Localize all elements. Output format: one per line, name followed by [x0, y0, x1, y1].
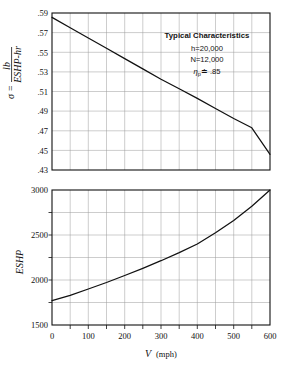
- lower-xtick-labels: 0 100 200 300 400 500 600: [50, 331, 277, 341]
- upper-ytick: .55: [37, 48, 48, 58]
- dual-chart-svg: .59 .57 .55 .53 .51 .49 .47 .45 .43 σ = …: [0, 0, 284, 370]
- velocity-symbol: V: [145, 348, 153, 359]
- upper-ytick: .53: [37, 67, 48, 77]
- figure-container: .59 .57 .55 .53 .51 .49 .47 .45 .43 σ = …: [0, 0, 284, 370]
- lower-ytick: 3000: [31, 185, 48, 195]
- upper-ytick: .57: [37, 28, 48, 38]
- lower-xtick: 300: [155, 331, 168, 341]
- annotation-altitude: h=20,000: [191, 44, 223, 53]
- upper-ytick: .49: [37, 106, 48, 116]
- velocity-unit: (mph): [156, 349, 177, 359]
- lower-xtick: 400: [191, 331, 204, 341]
- lower-xaxis-title: V (mph): [145, 348, 177, 359]
- upper-ytick: .45: [37, 146, 48, 156]
- lower-xtick: 0: [50, 331, 54, 341]
- upper-ytick: .59: [37, 8, 48, 18]
- lower-ytick: 2500: [31, 230, 48, 240]
- upper-yaxis-title: σ = lb ESHP-hr: [1, 46, 24, 99]
- lower-ytick-labels: 3000 2500 2000 1500: [31, 185, 48, 330]
- upper-ytick-labels: .59 .57 .55 .53 .51 .49 .47 .45 .43: [37, 8, 48, 175]
- annotation-block: Typical Characteristics h=20,000 N=12,00…: [165, 31, 250, 77]
- upper-chart: .59 .57 .55 .53 .51 .49 .47 .45 .43 σ = …: [1, 8, 270, 175]
- upper-ytick: .43: [37, 165, 48, 175]
- lower-xtick: 200: [118, 331, 131, 341]
- lower-xaxis-ticks: [70, 325, 252, 329]
- annotation-efficiency: ηp≐ .85: [193, 67, 220, 77]
- lower-xtick: 100: [82, 331, 95, 341]
- lower-ytick: 1500: [31, 320, 48, 330]
- upper-ytick: .47: [37, 126, 48, 136]
- lower-chart: 3000 2500 2000 1500 ESHP: [14, 185, 276, 359]
- lower-xtick: 600: [264, 331, 277, 341]
- lower-xtick: 500: [227, 331, 240, 341]
- lower-yaxis-title: ESHP: [14, 250, 25, 275]
- sigma-numerator: lb: [1, 62, 12, 70]
- annotation-title: Typical Characteristics: [165, 31, 250, 40]
- lower-ytick: 2000: [31, 275, 48, 285]
- upper-ytick: .51: [37, 87, 48, 97]
- sigma-equals-label: σ =: [5, 85, 16, 99]
- annotation-rpm: N=12,000: [190, 55, 223, 64]
- eta-value: ≐ .85: [201, 67, 221, 76]
- sigma-denominator: ESHP-hr: [12, 46, 23, 84]
